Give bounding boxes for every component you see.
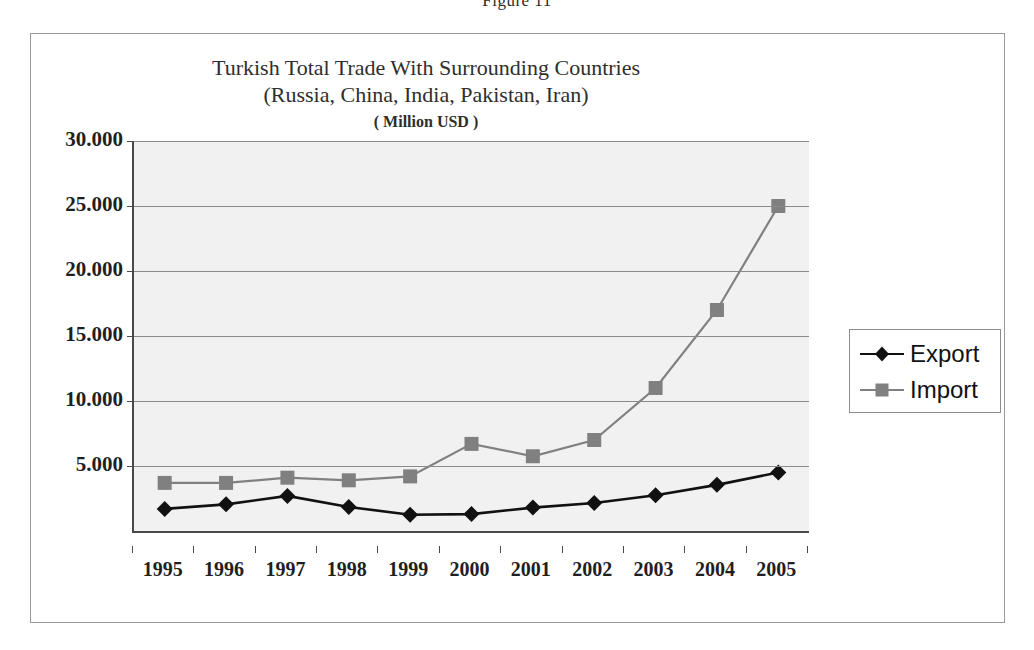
data-point-export-2001[interactable] (525, 500, 541, 516)
figure-caption: Figure 11 (0, 0, 1034, 11)
data-point-export-1998[interactable] (341, 499, 357, 515)
x-axis-tick (623, 546, 624, 553)
x-axis-tick (377, 546, 378, 553)
data-point-export-1999[interactable] (402, 507, 418, 523)
x-axis-tick (807, 546, 808, 553)
chart-unit-subtitle: ( Million USD ) (31, 110, 821, 134)
chart-frame: Turkish Total Trade With Surrounding Cou… (30, 33, 1005, 623)
y-axis-tick-label: 20.000 (65, 257, 123, 282)
legend-label-export: Export (910, 340, 979, 368)
data-point-import-2003[interactable] (649, 381, 663, 395)
plot-area (132, 141, 809, 533)
data-point-export-2000[interactable] (464, 506, 480, 522)
y-axis-tick (127, 466, 134, 467)
x-axis-tick-label: 2004 (695, 558, 735, 581)
data-point-export-1996[interactable] (218, 496, 234, 512)
y-axis-tick (127, 336, 134, 337)
chart-title-subline: (Russia, China, India, Pakistan, Iran) (31, 81, 821, 108)
x-axis-tick-label: 1998 (327, 558, 367, 581)
data-point-import-1997[interactable] (280, 471, 294, 485)
gridline (134, 336, 809, 337)
gridline (134, 466, 809, 467)
data-point-import-2000[interactable] (465, 437, 479, 451)
x-axis-tick (746, 546, 747, 553)
data-point-export-1995[interactable] (157, 501, 173, 517)
y-axis-tick-label: 15.000 (65, 322, 123, 347)
x-axis-tick-label: 2002 (572, 558, 612, 581)
x-axis-tick-label: 1997 (265, 558, 305, 581)
data-point-import-1998[interactable] (342, 473, 356, 487)
square-marker-icon (858, 380, 906, 400)
x-axis-tick (439, 546, 440, 553)
data-point-import-1999[interactable] (403, 469, 417, 483)
gridline (134, 206, 809, 207)
y-axis-labels: 5.00010.00015.00020.00025.00030.000 (31, 141, 123, 531)
gridline (134, 141, 809, 142)
legend-label-import: Import (910, 376, 978, 404)
y-axis-tick (127, 141, 134, 142)
x-axis-tick (193, 546, 194, 553)
x-axis-tick-label: 1999 (388, 558, 428, 581)
y-axis-tick-label: 5.000 (76, 452, 123, 477)
y-axis-tick-label: 30.000 (65, 127, 123, 152)
x-axis-tick-label: 1996 (204, 558, 244, 581)
x-axis-tick-label: 2005 (756, 558, 796, 581)
data-point-export-2002[interactable] (586, 495, 602, 511)
data-point-import-2004[interactable] (710, 303, 724, 317)
y-axis-tick-label: 25.000 (65, 192, 123, 217)
x-axis-tick-label: 2000 (450, 558, 490, 581)
x-axis-labels: 1995199619971998199920002001200220032004… (132, 546, 807, 576)
legend-item-import[interactable]: Import (850, 372, 1000, 408)
gridline (134, 271, 809, 272)
chart-title: Turkish Total Trade With Surrounding Cou… (31, 54, 821, 81)
data-point-export-2004[interactable] (709, 477, 725, 493)
y-axis-tick (127, 401, 134, 402)
y-axis-tick (127, 271, 134, 272)
y-axis-tick-label: 10.000 (65, 387, 123, 412)
data-point-import-2002[interactable] (587, 433, 601, 447)
diamond-marker-icon (858, 344, 906, 364)
x-axis-tick-label: 2001 (511, 558, 551, 581)
x-axis-tick (684, 546, 685, 553)
gridline (134, 401, 809, 402)
data-point-export-1997[interactable] (279, 488, 295, 504)
x-axis-tick (132, 546, 133, 553)
legend-item-export[interactable]: Export (850, 336, 1000, 372)
x-axis-tick (316, 546, 317, 553)
chart-legend: Export Import (849, 329, 1001, 413)
x-axis-tick (255, 546, 256, 553)
chart-title-block: Turkish Total Trade With Surrounding Cou… (31, 54, 821, 134)
data-point-import-1996[interactable] (219, 476, 233, 490)
x-axis-tick-label: 2003 (634, 558, 674, 581)
data-point-import-1995[interactable] (158, 476, 172, 490)
x-axis-tick (500, 546, 501, 553)
y-axis-tick (127, 206, 134, 207)
data-point-import-2001[interactable] (526, 449, 540, 463)
x-axis-tick-label: 1995 (143, 558, 183, 581)
x-axis-tick (562, 546, 563, 553)
data-point-export-2003[interactable] (648, 487, 664, 503)
